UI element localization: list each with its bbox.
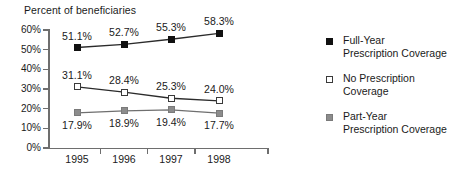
- data-point: [74, 83, 81, 90]
- y-axis-line: [48, 29, 50, 149]
- data-point: [121, 41, 128, 48]
- data-point: [121, 107, 128, 114]
- legend-marker-icon: [326, 114, 333, 121]
- legend-marker-icon: [326, 76, 333, 83]
- data-point: [74, 109, 81, 116]
- y-axis-tick: [43, 88, 48, 90]
- data-point: [74, 44, 81, 51]
- data-point: [168, 106, 175, 113]
- legend-marker-icon: [326, 38, 333, 45]
- data-point: [216, 110, 223, 117]
- y-axis-tick-label: 0%: [8, 142, 41, 153]
- chart-canvas: Percent of beneficiaries 0%10%20%30%40%5…: [0, 0, 453, 172]
- y-axis-title: Percent of beneficiaries: [24, 4, 136, 16]
- y-axis-tick-label: 50%: [8, 44, 41, 55]
- data-point: [216, 30, 223, 37]
- data-point-label: 58.3%: [184, 15, 254, 27]
- y-axis-tick-label: 30%: [8, 83, 41, 94]
- y-axis-tick-label: 40%: [8, 63, 41, 74]
- y-axis-tick: [43, 147, 48, 149]
- data-point-label: 24.0%: [184, 83, 254, 95]
- data-point-label: 17.7%: [184, 119, 254, 131]
- data-point: [121, 89, 128, 96]
- legend-label: Part-YearPrescription Coverage: [343, 110, 450, 135]
- legend-label: No PrescriptionCoverage: [343, 72, 450, 97]
- data-point: [216, 97, 223, 104]
- legend-label: Full-YearPrescription Coverage: [343, 34, 450, 59]
- y-axis-tick: [43, 108, 48, 110]
- y-axis-tick-label: 10%: [8, 122, 41, 133]
- x-axis-tick-label: 1998: [189, 153, 249, 165]
- series-line: [77, 110, 219, 113]
- y-axis-tick: [43, 49, 48, 51]
- x-axis-line: [48, 148, 269, 150]
- data-point: [168, 95, 175, 102]
- legend-item[interactable]: Full-YearPrescription Coverage: [326, 34, 450, 59]
- legend-item[interactable]: No PrescriptionCoverage: [326, 72, 450, 97]
- legend-item[interactable]: Part-YearPrescription Coverage: [326, 110, 450, 135]
- chart-legend: Full-YearPrescription CoverageNo Prescri…: [326, 34, 450, 148]
- y-axis-tick-label: 60%: [8, 24, 41, 35]
- data-point: [168, 36, 175, 43]
- y-axis-tick-label: 20%: [8, 103, 41, 114]
- x-axis-tick: [267, 148, 269, 154]
